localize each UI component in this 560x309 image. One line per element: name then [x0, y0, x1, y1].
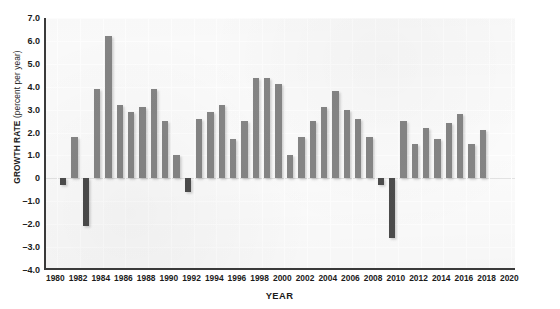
- bar: [71, 137, 77, 178]
- y-tick-label: 1.0: [27, 150, 40, 160]
- y-tick-label: 7.0: [27, 13, 40, 23]
- bar: [253, 78, 259, 179]
- x-tick-label: 2004: [318, 273, 337, 283]
- x-tick-label: 1990: [160, 273, 179, 283]
- bar: [355, 119, 361, 179]
- bar: [468, 144, 474, 178]
- plot-area: [44, 18, 515, 270]
- x-tick-label: 2018: [477, 273, 496, 283]
- bar: [366, 137, 372, 178]
- bar: [457, 114, 463, 178]
- x-tick-label: 2014: [432, 273, 451, 283]
- y-tick-label: 0: [35, 173, 40, 183]
- bar: [423, 128, 429, 178]
- x-tick-label: 1986: [114, 273, 133, 283]
- bar: [275, 84, 281, 178]
- bar: [162, 121, 168, 178]
- bar: [378, 178, 384, 185]
- x-tick-label: 1982: [69, 273, 88, 283]
- x-axis-tick-labels: 1980198219841986198819901992199419961998…: [44, 273, 515, 287]
- bar: [344, 110, 350, 179]
- bar: [264, 78, 270, 179]
- bar: [207, 112, 213, 178]
- bar: [412, 144, 418, 178]
- bar: [241, 121, 247, 178]
- x-tick-label: 1996: [228, 273, 247, 283]
- y-tick-label: 5.0: [27, 59, 40, 69]
- x-tick-label: 2008: [364, 273, 383, 283]
- y-tick-label: 3.0: [27, 105, 40, 115]
- x-tick-label: 1988: [137, 273, 156, 283]
- x-tick-label: 1992: [182, 273, 201, 283]
- bar: [117, 105, 123, 178]
- bar: [400, 121, 406, 178]
- bar: [60, 178, 66, 185]
- bar: [434, 139, 440, 178]
- bar: [219, 105, 225, 178]
- x-tick-label: 1994: [205, 273, 224, 283]
- bar: [332, 91, 338, 178]
- x-tick-label: 1980: [46, 273, 65, 283]
- bar: [94, 89, 100, 178]
- x-tick-label: 2012: [409, 273, 428, 283]
- x-tick-label: 2002: [296, 273, 315, 283]
- bar: [446, 123, 452, 178]
- y-tick-label: –2.0: [22, 219, 40, 229]
- bar: [151, 89, 157, 178]
- y-tick-label: 2.0: [27, 128, 40, 138]
- x-tick-label: 2016: [455, 273, 474, 283]
- x-tick-label: 1998: [250, 273, 269, 283]
- bar: [105, 36, 111, 178]
- y-tick-label: –3.0: [22, 242, 40, 252]
- bar: [139, 107, 145, 178]
- bar: [321, 107, 327, 178]
- x-tick-label: 1984: [91, 273, 110, 283]
- x-tick-label: 2010: [387, 273, 406, 283]
- bar: [310, 121, 316, 178]
- y-tick-label: –4.0: [22, 265, 40, 275]
- y-tick-label: 4.0: [27, 82, 40, 92]
- y-tick-label: –1.0: [22, 196, 40, 206]
- bar-series: [46, 18, 515, 268]
- x-tick-label: 2006: [341, 273, 360, 283]
- x-tick-label: 2000: [273, 273, 292, 283]
- y-axis-tick-labels: 7.06.05.04.03.02.01.00–1.0–2.0–3.0–4.0: [14, 18, 40, 270]
- bar: [389, 178, 395, 238]
- bar: [83, 178, 89, 226]
- x-axis-title: YEAR: [44, 290, 515, 301]
- bar: [185, 178, 191, 192]
- bar: [298, 137, 304, 178]
- bar: [196, 119, 202, 179]
- growth-rate-bar-chart: GROWTH RATE (percent per year) 7.06.05.0…: [0, 0, 560, 309]
- x-tick-label: 2020: [500, 273, 519, 283]
- bar: [128, 112, 134, 178]
- bar: [230, 139, 236, 178]
- bar: [480, 130, 486, 178]
- bar: [173, 155, 179, 178]
- y-tick-label: 6.0: [27, 36, 40, 46]
- bar: [287, 155, 293, 178]
